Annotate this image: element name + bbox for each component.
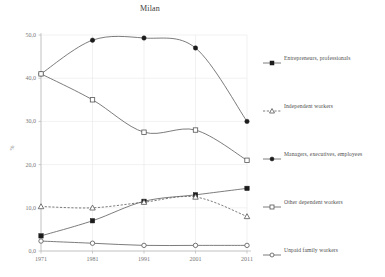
y-tick-label: 50,0 xyxy=(26,32,37,38)
data-point-marker xyxy=(39,72,43,76)
data-point-marker xyxy=(193,46,197,50)
legend-label: Managers, executives, employees xyxy=(282,152,362,158)
data-point-marker xyxy=(270,109,275,114)
legend-marker-icon xyxy=(262,54,282,64)
data-point-marker xyxy=(90,98,94,102)
data-point-marker xyxy=(270,157,274,161)
y-tick-label: 0,0 xyxy=(29,248,37,254)
legend-label: Entrepreneurs, professionals xyxy=(282,56,351,62)
legend-label: Other dependent workers xyxy=(282,200,343,206)
y-tick-label: 20,0 xyxy=(26,162,37,168)
legend-item-4[interactable]: Unpaid family workers xyxy=(262,244,338,258)
data-point-marker xyxy=(39,239,43,243)
data-point-marker xyxy=(244,214,250,219)
data-point-marker xyxy=(142,36,146,40)
data-point-marker xyxy=(245,243,249,247)
legend-marker-icon xyxy=(262,198,282,208)
data-point-marker xyxy=(245,186,249,190)
legend-item-3[interactable]: Other dependent workers xyxy=(262,196,343,210)
y-axis-label: % xyxy=(9,146,15,151)
legend-item-0[interactable]: Entrepreneurs, professionals xyxy=(262,52,351,66)
data-point-marker xyxy=(193,243,197,247)
x-tick-label: 2011 xyxy=(241,256,253,262)
x-tick-label: 2001 xyxy=(190,256,202,262)
legend-marker-icon xyxy=(262,150,282,160)
legend-label: Independent workers xyxy=(282,104,333,110)
legend-item-1[interactable]: Independent workers xyxy=(262,100,333,114)
data-point-marker xyxy=(90,38,94,42)
data-point-marker xyxy=(270,61,274,65)
legend: Entrepreneurs, professionalsIndependent … xyxy=(262,44,385,269)
data-point-marker xyxy=(270,253,274,257)
data-point-marker xyxy=(142,130,146,134)
y-tick-label: 40,0 xyxy=(26,75,37,81)
legend-item-2[interactable]: Managers, executives, employees xyxy=(262,148,362,162)
gridlines xyxy=(41,35,247,251)
data-point-marker xyxy=(270,205,274,209)
x-tick-label: 1981 xyxy=(87,256,99,262)
legend-marker-icon xyxy=(262,246,282,256)
data-point-marker xyxy=(193,128,197,132)
legend-marker-icon xyxy=(262,102,282,112)
y-tick-label: 30,0 xyxy=(26,118,37,124)
x-axis: 19711981199120012011 xyxy=(35,251,253,262)
y-tick-label: 10,0 xyxy=(26,205,37,211)
data-point-marker xyxy=(245,158,249,162)
data-point-marker xyxy=(39,234,43,238)
data-point-marker xyxy=(245,119,249,123)
data-point-marker xyxy=(90,219,94,223)
chart-container: Milan 0,010,020,030,040,050,0 1971198119… xyxy=(0,0,385,277)
legend-label: Unpaid family workers xyxy=(282,248,338,254)
x-tick-label: 1991 xyxy=(138,256,150,262)
x-tick-label: 1971 xyxy=(35,256,47,262)
y-axis: 0,010,020,030,040,050,0 xyxy=(26,32,42,254)
data-point-marker xyxy=(90,241,94,245)
data-point-marker xyxy=(142,243,146,247)
